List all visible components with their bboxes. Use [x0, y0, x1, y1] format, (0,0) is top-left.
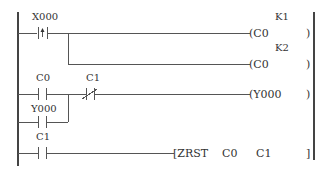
coil-y000: (Y000 — [249, 88, 282, 101]
constant-k2: K2 — [275, 42, 289, 53]
no-contact-icon — [38, 147, 46, 159]
rung-3: C1 [ZRST C0 C1 ] — [18, 131, 310, 160]
ladder-diagram: X000 K1 (C0 ) K2 (C0 ) C0 C1 — [0, 0, 331, 174]
coil-close-1: ) — [306, 27, 310, 40]
rung-2: C0 C1 (Y000 ) Y000 — [18, 72, 310, 128]
contact-label-x000: X000 — [32, 11, 58, 22]
no-contact-icon — [38, 116, 46, 128]
contact-label-c1: C1 — [36, 131, 50, 142]
zrst-arg-c1: C1 — [256, 147, 271, 160]
coil-close-2: ) — [306, 58, 310, 71]
constant-k1: K1 — [275, 11, 289, 22]
coil-close-3: ) — [306, 88, 310, 101]
instruction-zrst: [ZRST — [173, 147, 209, 160]
contact-label-y000: Y000 — [30, 103, 57, 114]
no-contact-icon — [38, 88, 46, 100]
contact-label-c1-nc: C1 — [86, 72, 100, 83]
coil-c0-k1: (C0 — [249, 27, 269, 40]
zrst-arg-c0: C0 — [222, 147, 237, 160]
coil-c0-k2: (C0 — [249, 58, 269, 71]
rung-1: X000 K1 (C0 ) K2 (C0 ) — [18, 11, 310, 71]
instruction-close: ] — [306, 147, 310, 160]
rising-edge-contact-icon — [38, 27, 47, 39]
contact-label-c0: C0 — [36, 72, 50, 83]
